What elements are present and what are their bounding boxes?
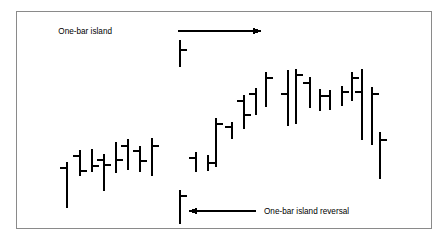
price-bar-chart: One-bar islandOne-bar island reversal xyxy=(0,0,447,247)
annotation-label: One-bar island reversal xyxy=(264,207,349,216)
chart-frame xyxy=(17,12,432,229)
annotation-label: One-bar island xyxy=(58,27,112,36)
